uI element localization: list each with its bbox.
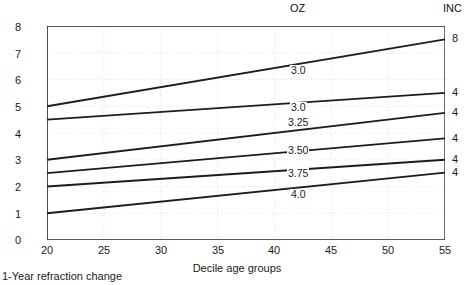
y-tick-7: 7 <box>7 49 21 60</box>
y-tick-0: 0 <box>7 235 21 246</box>
oz-column-header: OZ <box>290 2 305 14</box>
y-tick-4: 4 <box>7 129 21 140</box>
curve-label-5: 4.0 <box>290 189 307 200</box>
x-tick-30: 30 <box>148 245 174 256</box>
x-tick-40: 40 <box>261 245 287 256</box>
line-series-4 <box>47 160 445 187</box>
y-tick-5: 5 <box>7 102 21 113</box>
inc-value-4: 4 <box>452 154 458 165</box>
inc-value-2: 4 <box>452 107 458 118</box>
figure-caption: 1-Year refraction change <box>2 270 122 282</box>
y-tick-6: 6 <box>7 75 21 86</box>
inc-value-1: 4 <box>452 87 458 98</box>
x-tick-20: 20 <box>34 245 60 256</box>
curve-label-2: 3.25 <box>287 117 309 128</box>
curve-label-1: 3.0 <box>290 102 307 113</box>
curve-label-0: 3.0 <box>290 65 307 76</box>
x-tick-50: 50 <box>375 245 401 256</box>
x-tick-55: 55 <box>432 245 458 256</box>
line-series-5 <box>47 173 445 214</box>
y-tick-3: 3 <box>7 155 21 166</box>
y-tick-1: 1 <box>7 209 21 220</box>
curve-label-4: 3.75 <box>287 168 309 179</box>
x-tick-45: 45 <box>318 245 344 256</box>
inc-value-0: 8 <box>452 33 458 44</box>
inc-value-3: 4 <box>452 133 458 144</box>
x-tick-35: 35 <box>205 245 231 256</box>
plot-svg <box>47 26 445 240</box>
x-tick-25: 25 <box>91 245 117 256</box>
inc-column-header: INC <box>443 2 462 14</box>
plot-area: 3.0 3.0 3.25 3.50 3.75 4.0 <box>47 26 445 240</box>
y-tick-2: 2 <box>7 182 21 193</box>
data-lines <box>47 39 445 213</box>
y-tick-8: 8 <box>7 22 21 33</box>
line-series-2 <box>47 113 445 160</box>
curve-label-3: 3.50 <box>287 145 309 156</box>
chart-figure: OZ INC Diopters 8 7 6 5 4 3 2 1 0 20 25 … <box>0 0 474 285</box>
line-series-3 <box>47 138 445 173</box>
inc-value-5: 4 <box>452 167 458 178</box>
